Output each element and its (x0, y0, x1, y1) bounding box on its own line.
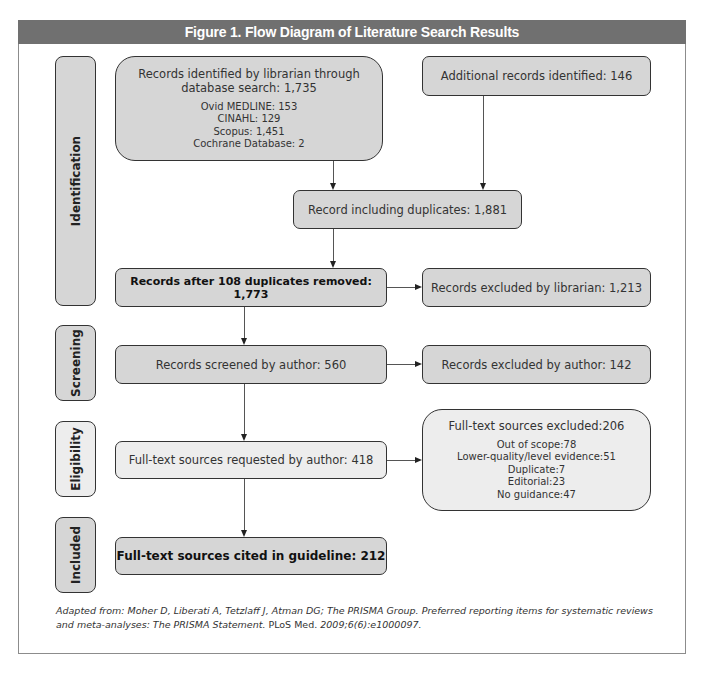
stage-label: Eligibility (69, 427, 83, 491)
connector-line (244, 307, 245, 338)
caption-journal: PLoS Med. (265, 619, 317, 630)
source-item: CINAHL: 129 (193, 113, 304, 126)
arrow-right-icon (415, 361, 422, 367)
arrow-down-icon (241, 434, 247, 441)
arrow-down-icon (330, 183, 336, 190)
source-list: Ovid MEDLINE: 153 CINAHL: 129 Scopus: 1,… (193, 101, 304, 151)
connector-line (244, 479, 245, 530)
connector-line (387, 364, 415, 365)
connector-line (387, 460, 415, 461)
exclusion-reason: Out of scope:78 (457, 439, 616, 452)
box-heading: database search: 1,735 (181, 81, 317, 95)
connector-line (387, 287, 415, 288)
box-text: Records excluded by author: 142 (442, 358, 632, 372)
stage-label: Included (69, 526, 83, 584)
exclusion-reason: Editorial:23 (457, 476, 616, 489)
box-heading: Records identified by librarian through (138, 67, 360, 81)
box-librarian-search: Records identified by librarian through … (115, 56, 383, 161)
stage-included: Included (55, 517, 96, 593)
box-text: Full-text sources requested by author: 4… (129, 453, 374, 467)
caption-reference: 2009;6(6):e1000097. (317, 619, 421, 630)
box-including-duplicates: Record including duplicates: 1,881 (293, 190, 522, 229)
arrow-right-icon (415, 457, 422, 463)
connector-line (333, 229, 334, 261)
source-item: Cochrane Database: 2 (193, 138, 304, 151)
stage-label: Identification (69, 136, 83, 226)
exclusion-reason: No guidance:47 (457, 489, 616, 502)
figure-title: Figure 1. Flow Diagram of Literature Sea… (18, 20, 686, 44)
stage-identification: Identification (55, 56, 96, 306)
box-text: Records excluded by librarian: 1,213 (431, 281, 642, 295)
box-text: Full-text sources cited in guideline: 21… (117, 549, 386, 563)
source-item: Ovid MEDLINE: 153 (193, 101, 304, 114)
exclusion-reason: Duplicate:7 (457, 464, 616, 477)
stage-screening: Screening (55, 325, 96, 401)
connector-line (244, 384, 245, 434)
box-fulltext-requested: Full-text sources requested by author: 4… (115, 441, 387, 479)
arrow-down-icon (241, 530, 247, 537)
arrow-right-icon (415, 284, 422, 290)
box-text: Additional records identified: 146 (441, 69, 632, 83)
arrow-down-icon (330, 261, 336, 268)
box-fulltext-cited: Full-text sources cited in guideline: 21… (115, 537, 387, 575)
stage-label: Screening (69, 329, 83, 397)
arrow-down-icon (480, 183, 486, 190)
connector-line (483, 96, 484, 183)
box-after-duplicates-removed: Records after 108 duplicates removed: 1,… (115, 268, 387, 307)
connector-line (333, 161, 334, 183)
source-item: Scopus: 1,451 (193, 126, 304, 139)
exclusion-reason: Lower-quality/level evidence:51 (457, 451, 616, 464)
box-heading: Full-text sources excluded:206 (449, 419, 625, 433)
box-text: Records after 108 duplicates removed: 1,… (116, 275, 386, 301)
box-screened-by-author: Records screened by author: 560 (115, 345, 387, 384)
box-excluded-by-author: Records excluded by author: 142 (422, 345, 651, 384)
exclusion-reason-list: Out of scope:78 Lower-quality/level evid… (457, 439, 616, 502)
box-additional-records: Additional records identified: 146 (422, 56, 651, 96)
box-text: Record including duplicates: 1,881 (308, 203, 507, 217)
box-text: Records screened by author: 560 (156, 358, 347, 372)
figure-caption: Adapted from: Moher D, Liberati A, Tetzl… (56, 604, 666, 632)
box-excluded-by-librarian: Records excluded by librarian: 1,213 (422, 268, 651, 307)
arrow-down-icon (241, 338, 247, 345)
stage-eligibility: Eligibility (55, 421, 96, 497)
box-fulltext-excluded: Full-text sources excluded:206 Out of sc… (422, 409, 651, 511)
